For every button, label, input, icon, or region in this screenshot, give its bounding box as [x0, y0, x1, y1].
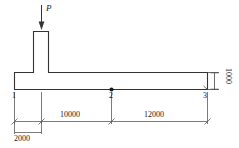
dimension-label-12000: 12000 [144, 111, 164, 119]
structural-diagram: P 1 2 3 10000 12000 2000 1000 [0, 0, 239, 148]
node-label-3: 3 [203, 92, 207, 100]
dimension-label-1000: 1000 [224, 68, 232, 84]
dimension-label-2000: 2000 [14, 135, 30, 143]
load-arrow-icon [39, 5, 45, 30]
diagram-canvas [0, 0, 239, 148]
frame-outline [15, 32, 208, 90]
dimension-2000-line [15, 122, 42, 135]
load-label-P: P [46, 4, 52, 13]
depth-dimension-1000 [208, 73, 220, 90]
dimension-label-10000: 10000 [60, 111, 80, 119]
node-label-2: 2 [109, 92, 113, 100]
node-label-1: 1 [12, 92, 16, 100]
